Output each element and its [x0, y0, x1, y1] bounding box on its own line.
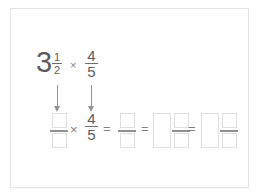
improper-fraction-input: [50, 113, 68, 148]
fraction-line: [118, 130, 136, 132]
problem-whole-number: 3: [36, 50, 52, 74]
whole-number-input-box[interactable]: [153, 113, 171, 148]
down-arrow-icon: [57, 85, 58, 106]
equals-sign: =: [103, 122, 111, 136]
problem-multiplier-fraction: 4 5: [85, 49, 98, 78]
numerator-input-box[interactable]: [120, 113, 135, 128]
denominator-input-box[interactable]: [52, 133, 67, 148]
denominator-input-box[interactable]: [120, 133, 135, 148]
fraction-numerator: 4: [87, 49, 95, 62]
problem-mixed-fraction: 1 2: [52, 52, 62, 75]
fraction-denominator: 5: [87, 65, 95, 78]
denominator-input-box[interactable]: [174, 133, 189, 148]
fraction-line: [50, 130, 68, 132]
mixed-fraction-input: [220, 113, 238, 148]
whole-number-input-box[interactable]: [201, 113, 219, 148]
down-arrow-icon: [91, 85, 92, 106]
fraction-denominator: 5: [87, 128, 95, 141]
simplified-mixed-number-input: [201, 113, 238, 148]
equals-sign: =: [141, 122, 149, 136]
worksheet-card: 3 1 2 × 4 5 × 4 5 = = =: [10, 8, 249, 188]
denominator-input-box[interactable]: [222, 133, 237, 148]
fraction-numerator: 1: [54, 52, 60, 62]
multiply-operator: ×: [70, 59, 76, 71]
fraction-numerator: 4: [87, 112, 95, 125]
multiply-operator: ×: [70, 123, 78, 137]
numerator-input-box[interactable]: [174, 113, 189, 128]
numerator-input-box[interactable]: [222, 113, 237, 128]
mixed-number-input: [153, 113, 190, 148]
equals-sign: =: [188, 122, 196, 136]
product-fraction-input: [118, 113, 136, 148]
fraction-line: [220, 130, 238, 132]
fraction-denominator: 2: [54, 65, 60, 75]
numerator-input-box[interactable]: [52, 113, 67, 128]
work-multiplier-fraction: 4 5: [85, 112, 98, 141]
